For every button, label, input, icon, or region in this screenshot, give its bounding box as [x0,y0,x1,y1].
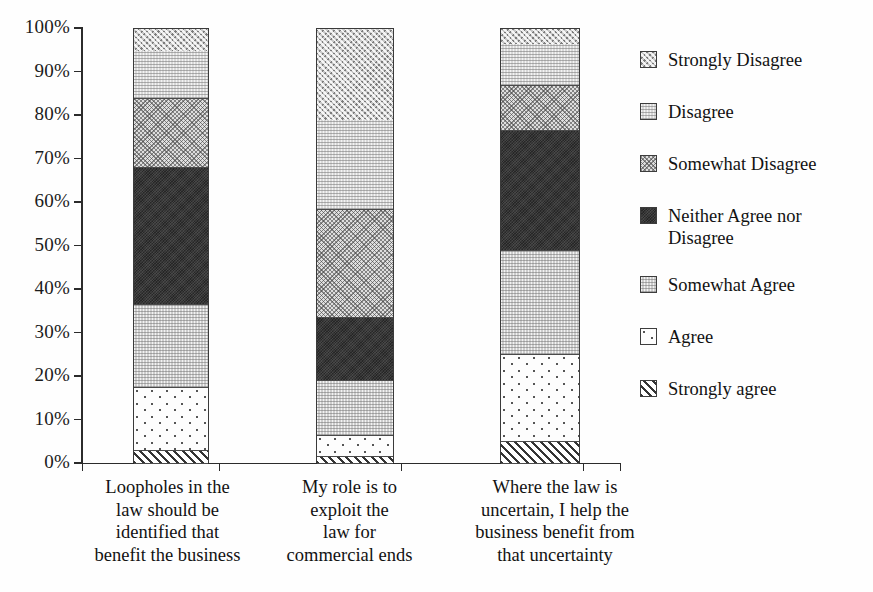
y-tick-label: 100% [0,16,70,38]
bar-segment[interactable] [501,355,579,442]
y-tick-mark [74,419,82,420]
bar-column-2[interactable] [316,28,394,463]
y-tick-label: 10% [0,408,70,430]
x-axis-label-line: exploit the [262,499,437,522]
bar-segment[interactable] [501,131,579,251]
legend-label: Strongly Disagree [668,49,802,71]
bar-segment[interactable] [317,210,393,319]
x-axis-label-line: that uncertainty [450,544,660,567]
bar-column-1[interactable] [133,28,209,463]
y-tick-label: 20% [0,364,70,386]
y-tick-label: 70% [0,147,70,169]
bar-segment[interactable] [501,44,579,85]
y-tick-mark [74,158,82,159]
legend-swatch-icon [640,51,657,68]
y-tick-label: 80% [0,103,70,125]
bar-segment[interactable] [501,442,579,464]
y-tick-label: 60% [0,190,70,212]
legend-label: Strongly agree [668,378,776,400]
y-tick-mark [74,71,82,72]
bar-segment[interactable] [317,29,393,120]
legend-item-6[interactable]: Agree [640,326,868,348]
bar-segment[interactable] [134,388,208,451]
legend-label: Agree [668,326,713,348]
plot-area [82,28,620,463]
bar-segment[interactable] [317,120,393,209]
y-tick-mark [74,462,82,463]
legend-item-5[interactable]: Somewhat Agree [640,274,868,296]
y-tick-mark [74,245,82,246]
y-tick-label: 90% [0,60,70,82]
x-axis-label-line: My role is to [262,476,437,499]
legend-item-3[interactable]: Somewhat Disagree [640,153,868,175]
x-tick-mark [401,463,402,471]
legend-label: Somewhat Agree [668,274,795,296]
x-axis-label-1: Loopholes in thelaw should beidentified … [70,476,265,566]
legend-item-2[interactable]: Disagree [640,101,868,123]
x-axis-label-line: identified that [70,521,265,544]
legend-label: Neither Agree nor Disagree [668,205,868,249]
x-axis-label-line: law for [262,521,437,544]
bar-segment[interactable] [134,99,208,169]
legend-label: Somewhat Disagree [668,153,816,175]
bar-segment[interactable] [134,168,208,305]
legend-swatch-icon [640,328,657,345]
legend-item-4[interactable]: Neither Agree nor Disagree [640,205,868,249]
y-tick-mark [74,375,82,376]
x-tick-mark [219,463,220,471]
x-axis-label-line: benefit the business [70,544,265,567]
x-axis-label-line: commercial ends [262,544,437,567]
x-axis-label-line: uncertain, I help the [450,499,660,522]
legend-swatch-icon [640,155,657,172]
x-axis-label-3: Where the law isuncertain, I help thebus… [450,476,660,566]
x-tick-mark [620,463,621,471]
y-tick-mark [74,114,82,115]
x-axis-label-line: business benefit from [450,521,660,544]
bar-segment[interactable] [134,451,208,464]
bar-segment[interactable] [134,29,208,51]
y-tick-label: 40% [0,277,70,299]
legend-swatch-icon [640,207,657,224]
legend-swatch-icon [640,103,657,120]
bar-segment[interactable] [317,457,393,464]
bar-segment[interactable] [134,51,208,99]
x-tick-mark [583,463,584,471]
bar-segment[interactable] [501,251,579,355]
legend-item-1[interactable]: Strongly Disagree [640,49,868,71]
bar-column-3[interactable] [500,28,580,463]
bar-segment[interactable] [317,381,393,435]
y-tick-mark [74,288,82,289]
bar-segment[interactable] [134,305,208,388]
x-axis-label-line: law should be [70,499,265,522]
y-tick-label: 30% [0,321,70,343]
y-tick-mark [74,332,82,333]
bar-segment[interactable] [501,29,579,44]
x-axis-label-2: My role is toexploit thelaw forcommercia… [262,476,437,566]
y-tick-label: 50% [0,234,70,256]
bar-segment[interactable] [317,436,393,458]
legend-label: Disagree [668,101,734,123]
y-tick-label: 0% [0,451,70,473]
y-tick-mark [74,201,82,202]
bar-segment[interactable] [317,318,393,381]
x-tick-mark [82,463,83,471]
x-axis-label-line: Where the law is [450,476,660,499]
legend-swatch-icon [640,380,657,397]
y-tick-mark [74,27,82,28]
legend-item-7[interactable]: Strongly agree [640,378,868,400]
x-axis-label-line: Loopholes in the [70,476,265,499]
legend-swatch-icon [640,276,657,293]
bar-segment[interactable] [501,86,579,132]
stacked-bar-chart: 100%90%80%70%60%50%40%30%20%10%0% Loopho… [0,0,873,592]
